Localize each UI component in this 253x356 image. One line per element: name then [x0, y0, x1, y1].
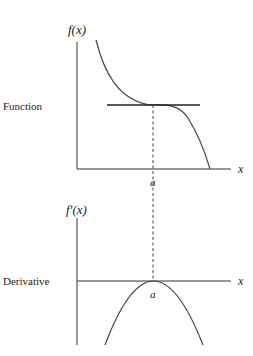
- diagram-canvas: f(x) x Function a f′(x) x Derivative a: [0, 0, 253, 356]
- function-y-axis-label: f(x): [68, 22, 86, 37]
- derivative-x-axis-label: x: [237, 274, 244, 288]
- function-row-label: Function: [3, 100, 43, 112]
- derivative-point-label: a: [150, 288, 156, 300]
- function-x-axis-label: x: [237, 162, 244, 176]
- function-panel: f(x) x Function a: [3, 22, 244, 188]
- derivative-y-axis-label: f′(x): [66, 202, 87, 217]
- derivative-panel: f′(x) x Derivative a: [3, 202, 244, 345]
- derivative-row-label: Derivative: [3, 275, 50, 287]
